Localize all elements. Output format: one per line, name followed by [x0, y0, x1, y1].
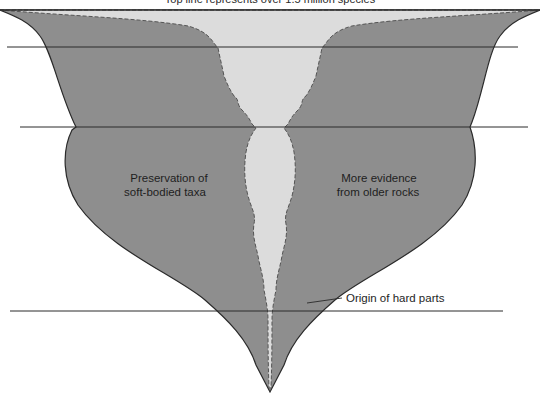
left-region-label-line2: soft-bodied taxa [124, 186, 206, 198]
diagram-title: Top line represents over 1.5 million spe… [165, 0, 376, 5]
left-region-label-line1: Preservation of [130, 172, 208, 184]
right-region-label-line2: from older rocks [337, 186, 420, 198]
origin-hard-parts-label: Origin of hard parts [346, 292, 445, 304]
diversity-diagram: Top line represents over 1.5 million spe… [0, 0, 540, 395]
right-region-label-line1: More evidence [341, 172, 416, 184]
